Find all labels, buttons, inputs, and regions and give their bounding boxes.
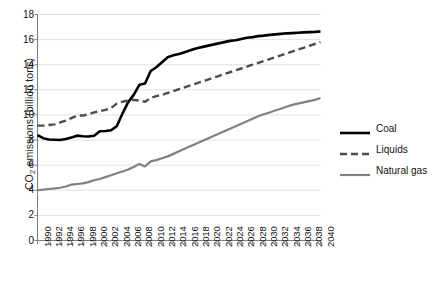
x-tick-label: 2020 xyxy=(211,226,222,247)
legend-swatch-icon xyxy=(340,166,370,176)
x-tick-label: 1992 xyxy=(53,226,64,247)
legend-label: Coal xyxy=(376,123,397,134)
legend: CoalLiquidsNatural gas xyxy=(340,118,435,181)
legend-item-liquids[interactable]: Liquids xyxy=(340,139,435,160)
legend-item-natural-gas[interactable]: Natural gas xyxy=(340,160,435,181)
x-tick-label: 1994 xyxy=(64,226,75,247)
co2-emissions-line-chart: CO2 emissions (billion tons) 02468101214… xyxy=(0,0,435,288)
x-tick-label: 2000 xyxy=(98,226,109,247)
x-tick-label: 2012 xyxy=(166,226,177,247)
x-tick-label: 1996 xyxy=(75,226,86,247)
x-tick-label: 2034 xyxy=(291,226,302,247)
x-tick-label: 2010 xyxy=(155,226,166,247)
x-tick-label: 2024 xyxy=(234,226,245,247)
legend-swatch-icon xyxy=(340,145,370,155)
legend-item-coal[interactable]: Coal xyxy=(340,118,435,139)
x-tick-label: 2028 xyxy=(257,226,268,247)
x-tick-label: 2040 xyxy=(325,226,336,247)
x-tick-label: 2014 xyxy=(177,226,188,247)
legend-swatch-icon xyxy=(340,124,370,134)
x-tick-label: 2038 xyxy=(313,226,324,247)
x-tick-label: 1990 xyxy=(42,226,53,247)
x-tick-label: 2036 xyxy=(302,226,313,247)
legend-label: Liquids xyxy=(376,144,408,155)
x-tick-label: 1998 xyxy=(87,226,98,247)
x-tick-label: 2026 xyxy=(245,226,256,247)
x-tick-label: 2022 xyxy=(223,226,234,247)
x-tick-label: 2032 xyxy=(279,226,290,247)
x-tick-label: 2006 xyxy=(132,226,143,247)
x-tick-label: 2016 xyxy=(189,226,200,247)
legend-label: Natural gas xyxy=(376,165,427,176)
x-tick-label: 2004 xyxy=(121,226,132,247)
x-tick-label: 2030 xyxy=(268,226,279,247)
x-tick-label: 2018 xyxy=(200,226,211,247)
x-tick-label: 2002 xyxy=(109,226,120,247)
x-tick-label: 2008 xyxy=(143,226,154,247)
